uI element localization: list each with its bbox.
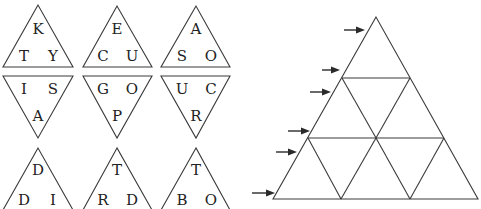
letter-left: I xyxy=(21,80,27,98)
arrow-icon xyxy=(310,89,331,96)
letter-left: R xyxy=(97,191,109,209)
piece-r1-3: A S O xyxy=(161,6,230,67)
piece-r2-3: U C R xyxy=(161,76,230,138)
piece-r2-2: G O P xyxy=(83,76,152,138)
letter-top: E xyxy=(112,20,123,38)
puzzle-diagram: K T Y E C U A S O I S A G O P U C R D D … xyxy=(0,0,481,209)
letter-right: C xyxy=(205,80,216,98)
letter-left: D xyxy=(18,191,30,209)
piece-r2-1: I S A xyxy=(3,76,73,138)
letter-top: T xyxy=(112,161,122,179)
letter-top: K xyxy=(32,20,44,38)
arrow-icon xyxy=(276,149,297,156)
piece-r3-1: D D I xyxy=(3,148,73,209)
arrow-icon xyxy=(252,190,275,197)
letter-right: D xyxy=(126,191,138,209)
letter-left: B xyxy=(176,191,187,209)
letter-left: C xyxy=(97,47,108,65)
arrow-icon xyxy=(288,128,310,135)
piece-r3-2: T R D xyxy=(83,148,152,209)
letter-right: S xyxy=(48,80,58,98)
letter-top: T xyxy=(191,161,201,179)
board-triangle xyxy=(273,17,478,199)
letter-top: A xyxy=(190,20,202,38)
letter-top: D xyxy=(32,161,44,179)
piece-r1-2: E C U xyxy=(83,6,152,67)
letter-bottom: A xyxy=(32,107,44,125)
arrow-icon xyxy=(322,67,340,74)
piece-r1-1: K T Y xyxy=(3,5,73,67)
letter-left: U xyxy=(176,80,189,98)
letter-right: O xyxy=(205,191,217,209)
letter-left: S xyxy=(177,47,187,65)
letter-right: I xyxy=(50,191,56,209)
letter-bottom: P xyxy=(112,107,122,125)
arrow-icon xyxy=(344,27,365,34)
letter-bottom: R xyxy=(190,107,202,125)
piece-r3-3: T B O xyxy=(161,148,230,209)
letter-right: Y xyxy=(47,47,59,65)
letter-right: O xyxy=(126,80,138,98)
letter-right: U xyxy=(126,47,139,65)
letter-left: T xyxy=(19,47,29,65)
letter-right: O xyxy=(205,47,217,65)
letter-left: G xyxy=(97,80,109,98)
